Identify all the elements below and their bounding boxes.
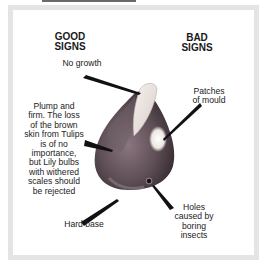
- label-plump-firm: Plump and firm. The loss of the brown sk…: [20, 102, 88, 196]
- label-holes-insects: Holes caused by boring insects: [168, 203, 220, 241]
- label-line: insects: [168, 231, 220, 240]
- label-line: No growth: [52, 59, 112, 68]
- label-line: be rejected: [20, 187, 88, 196]
- label-line: Hard base: [54, 220, 114, 229]
- pointer-no-growth: [83, 75, 141, 95]
- label-patches-mould: Patches of mould: [184, 87, 234, 106]
- label-line: of mould: [184, 96, 234, 105]
- insect-hole: [147, 179, 151, 183]
- label-hard-base: Hard base: [54, 220, 114, 229]
- label-no-growth: No growth: [52, 59, 112, 68]
- pointer-mould: [163, 103, 202, 141]
